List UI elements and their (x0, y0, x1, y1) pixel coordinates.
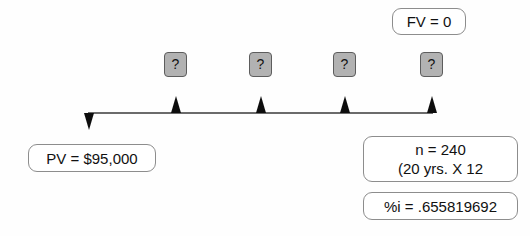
periods-callout: n = 240 (20 yrs. X 12 (363, 136, 518, 182)
future-value-callout: FV = 0 (392, 8, 466, 35)
payment-box-1[interactable]: ? (164, 52, 187, 77)
timeline-start-down-arrow (84, 113, 94, 130)
payment-box-2[interactable]: ? (249, 52, 272, 77)
present-value-callout: PV = $95,000 (28, 144, 156, 172)
interest-rate-label: %i = .655819692 (384, 197, 497, 216)
present-value-label: PV = $95,000 (46, 149, 137, 168)
timeline-marker-up-arrow-4 (427, 96, 437, 113)
payment-box-3[interactable]: ? (333, 52, 356, 77)
future-value-label: FV = 0 (407, 12, 452, 31)
periods-detail-label: (20 yrs. X 12 (398, 159, 483, 178)
timeline-marker-up-arrow-1 (171, 96, 181, 113)
periods-count-label: n = 240 (415, 140, 465, 159)
payment-box-4[interactable]: ? (420, 52, 443, 77)
timeline-diagram: FV = 0 ? ? ? ? PV = $95,000 n = 240 (20 … (0, 0, 530, 236)
interest-rate-callout: %i = .655819692 (363, 192, 518, 220)
timeline-marker-up-arrow-3 (340, 96, 350, 113)
timeline-marker-up-arrow-2 (256, 96, 266, 113)
